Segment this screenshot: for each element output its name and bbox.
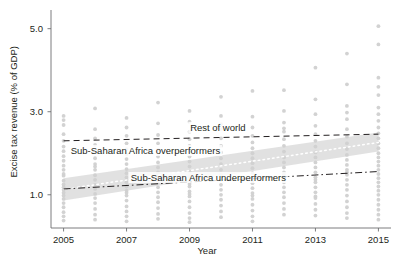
x-axis-title: Year [0,245,414,256]
x-tick-label: 2015 [356,234,400,245]
x-tick-label: 2009 [168,234,212,245]
x-tick-label: 2013 [293,234,337,245]
x-tick-label: 2011 [230,234,274,245]
annotation-ssa-overperformers: Sub-Saharan Africa overperformers [69,145,222,156]
y-tick-label: 5.0 [13,23,43,34]
x-tick-label: 2005 [42,234,86,245]
chart-figure: Excise tax revenue (% of GDP) Year 1.03.… [0,0,414,260]
annotation-rest-of-world: Rest of world [188,122,247,133]
y-tick-label: 3.0 [13,106,43,117]
x-tick-label: 2007 [105,234,149,245]
y-tick-label: 1.0 [13,189,43,200]
annotation-ssa-underperformers: Sub-Saharan Africa underperformers [129,172,288,183]
y-axis-title: Excise tax revenue (% of GDP) [8,58,19,178]
